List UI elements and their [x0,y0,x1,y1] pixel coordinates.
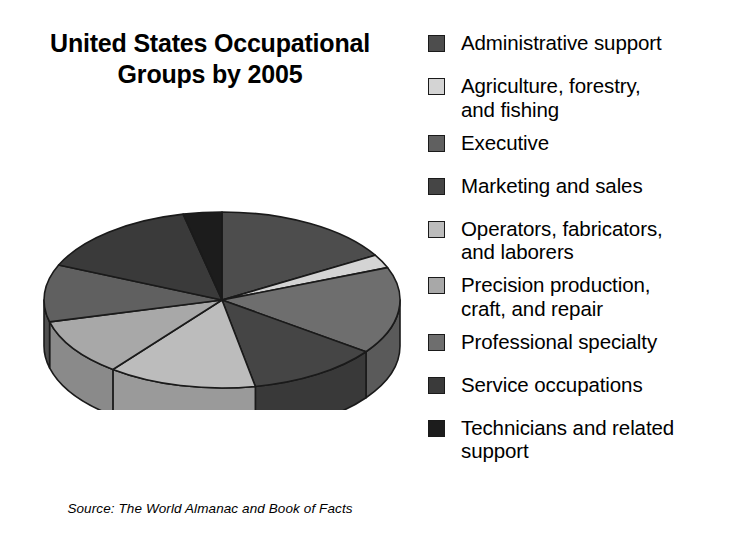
legend-item-label: Service occupations [461,373,643,397]
chart-panel: United States OccupationalGroups by 2005… [0,0,420,554]
legend-swatch-icon [428,35,445,52]
source-caption: Source: The World Almanac and Book of Fa… [0,501,420,516]
chart-title-line-2: Groups by 2005 [118,60,303,88]
legend-swatch-icon [428,178,445,195]
legend-item[interactable]: Operators, fabricators, and laborers [428,217,752,265]
pie-svg [22,150,412,410]
pie-3d-graphic [22,150,412,410]
chart-legend: Administrative support Agriculture, fore… [420,0,752,554]
legend-swatch-icon [428,78,445,95]
chart-title-line-1: United States Occupational [50,29,370,57]
legend-item-label: Technicians and related support [461,416,674,464]
legend-item[interactable]: Service occupations [428,373,752,407]
chart-title: United States OccupationalGroups by 2005 [0,28,420,89]
legend-swatch-icon [428,334,445,351]
legend-swatch-icon [428,221,445,238]
legend-item[interactable]: Executive [428,131,752,165]
legend-swatch-icon [428,135,445,152]
legend-item-label: Executive [461,131,549,155]
legend-item-label: Marketing and sales [461,174,643,198]
legend-item[interactable]: Precision production, craft, and repair [428,273,752,321]
legend-item-label: Precision production, craft, and repair [461,273,650,321]
legend-item[interactable]: Professional specialty [428,330,752,364]
legend-item[interactable]: Agriculture, forestry, and fishing [428,74,752,122]
legend-item[interactable]: Technicians and related support [428,416,752,464]
legend-item-label: Agriculture, forestry, and fishing [461,74,641,122]
legend-item-label: Operators, fabricators, and laborers [461,217,663,265]
legend-swatch-icon [428,377,445,394]
pie-chart-figure: United States OccupationalGroups by 2005… [0,0,752,554]
legend-item-label: Administrative support [461,31,662,55]
legend-item[interactable]: Marketing and sales [428,174,752,208]
legend-swatch-icon [428,420,445,437]
pie-top-slices [44,212,400,388]
legend-swatch-icon [428,277,445,294]
legend-item[interactable]: Administrative support [428,31,752,65]
legend-item-label: Professional specialty [461,330,657,354]
